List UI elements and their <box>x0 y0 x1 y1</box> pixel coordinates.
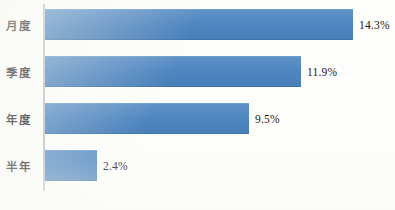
bar-chart: 月度 14.3% 季度 11.9% 年度 9.5% 半年 <box>0 0 395 210</box>
value-label-quarterly: 11.9% <box>307 56 337 87</box>
bar-row: 季度 11.9% <box>0 56 395 87</box>
category-label-halfyear: 半年 <box>0 150 38 181</box>
bar-row: 半年 2.4% <box>0 150 395 181</box>
bar-quarterly[interactable] <box>45 56 301 87</box>
bar-row: 年度 9.5% <box>0 103 395 134</box>
plot-area: 月度 14.3% 季度 11.9% 年度 9.5% 半年 <box>0 0 395 210</box>
bar-sheen <box>45 57 301 86</box>
category-label-monthly: 月度 <box>0 9 38 40</box>
value-label-monthly: 14.3% <box>359 9 390 40</box>
bar-sheen <box>45 104 249 133</box>
bar-sheen <box>45 151 97 180</box>
category-label-quarterly: 季度 <box>0 56 38 87</box>
bar-annual[interactable] <box>45 103 249 134</box>
bar-halfyear[interactable] <box>45 150 97 181</box>
bar-sheen <box>45 10 353 39</box>
value-label-annual: 9.5% <box>255 103 280 134</box>
bar-row: 月度 14.3% <box>0 9 395 40</box>
bar-monthly[interactable] <box>45 9 353 40</box>
value-label-halfyear: 2.4% <box>103 150 128 181</box>
category-label-annual: 年度 <box>0 103 38 134</box>
